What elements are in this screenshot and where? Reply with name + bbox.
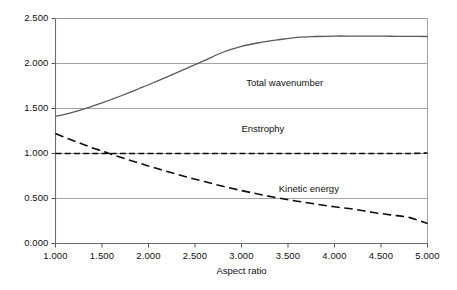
x-axis-tick-label: 5.000 — [406, 250, 450, 261]
x-axis-tick-label: 4.500 — [359, 250, 403, 261]
x-axis-tick-label: 1.000 — [34, 250, 78, 261]
plot-area — [0, 0, 457, 290]
x-axis-tick-label: 2.500 — [173, 250, 217, 261]
x-axis-tick-label: 3.000 — [220, 250, 264, 261]
x-axis-tick-label: 1.500 — [80, 250, 124, 261]
gridlines — [56, 19, 428, 199]
series-line-total-wavenumber — [56, 36, 428, 116]
x-axis-tick-label: 2.000 — [127, 250, 171, 261]
y-axis-tick-label: 1.500 — [24, 102, 48, 113]
x-axis-tick-label: 3.500 — [266, 250, 310, 261]
x-axis-title: Aspect ratio — [0, 265, 457, 276]
y-axis-tick-label: 0.000 — [24, 237, 48, 248]
chart-container: 0.0000.5001.0001.5002.0002.500 1.0001.50… — [0, 0, 457, 290]
x-axis-tick-label: 4.000 — [313, 250, 357, 261]
y-axis-tick-label: 2.000 — [24, 57, 48, 68]
y-axis-tick-label: 2.500 — [24, 12, 48, 23]
series-label-kinetic-energy: Kinetic energy — [279, 183, 339, 194]
series-label-enstrophy: Enstrophy — [242, 123, 285, 134]
y-axis-tick-label: 1.000 — [24, 147, 48, 158]
axis-tick-marks — [52, 19, 428, 248]
series-line-kinetic-energy — [56, 134, 428, 224]
y-axis-tick-label: 0.500 — [24, 192, 48, 203]
series-label-total-wavenumber: Total wavenumber — [246, 77, 323, 88]
